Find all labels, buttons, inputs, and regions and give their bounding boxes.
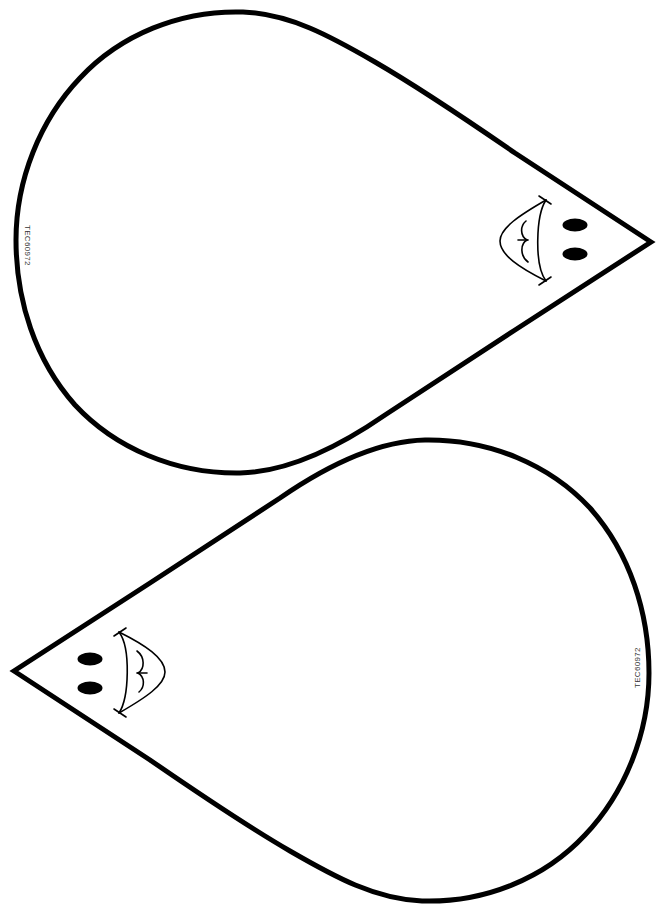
bottom-teardrop: TEC60972 — [14, 440, 649, 901]
teardrop-outline — [14, 440, 649, 901]
coloring-page: TEC60972 TEC60972 — [0, 0, 661, 907]
code-label: TEC60972 — [633, 647, 642, 688]
top-teardrop: TEC60972 — [16, 12, 651, 473]
teardrop-outline — [16, 12, 651, 473]
code-label: TEC60972 — [23, 225, 32, 266]
